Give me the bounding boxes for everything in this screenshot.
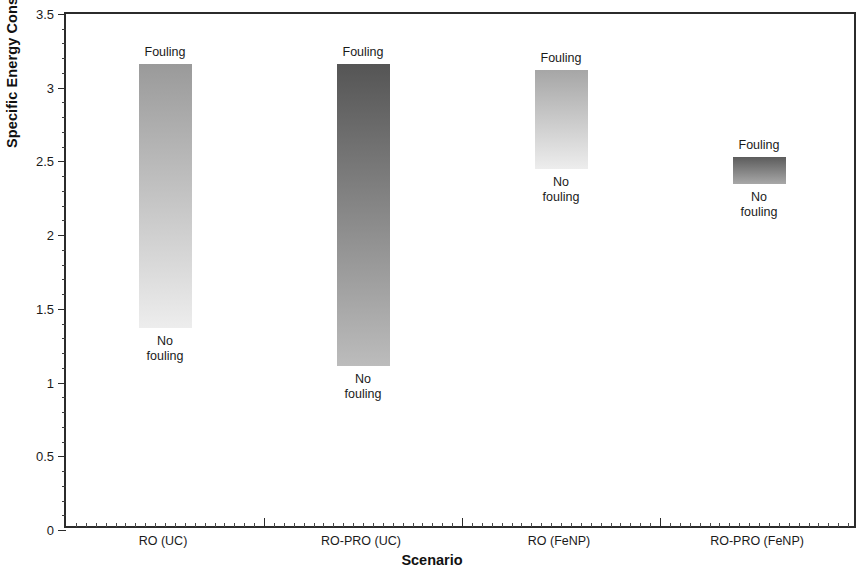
y-axis-minor-tick xyxy=(62,515,66,516)
y-axis-minor-tick xyxy=(62,353,66,354)
x-axis-minor-tick xyxy=(413,523,414,527)
x-axis-minor-tick xyxy=(650,523,651,527)
y-axis-minor-tick xyxy=(62,132,66,133)
x-axis-minor-tick xyxy=(680,523,681,527)
x-axis-minor-tick xyxy=(818,523,819,527)
x-axis-minor-tick xyxy=(789,523,790,527)
x-axis-minor-tick xyxy=(155,523,156,527)
x-axis-minor-tick xyxy=(838,523,839,527)
x-axis-minor-tick xyxy=(244,523,245,527)
y-axis-minor-tick xyxy=(62,412,66,413)
bar-bottom-label: Nofouling xyxy=(147,334,184,364)
y-axis-minor-tick xyxy=(62,294,66,295)
x-axis-tick-mark xyxy=(462,518,463,527)
y-axis-minor-tick xyxy=(62,29,66,30)
y-axis-tick-label: 3.5 xyxy=(36,7,54,22)
x-axis-minor-tick xyxy=(135,523,136,527)
x-axis-minor-tick xyxy=(106,523,107,527)
x-axis-minor-tick xyxy=(690,523,691,527)
x-axis-minor-tick xyxy=(521,523,522,527)
y-axis-tick-label: 3 xyxy=(47,80,54,95)
x-axis-minor-tick xyxy=(432,523,433,527)
x-axis-minor-tick xyxy=(799,523,800,527)
x-axis-minor-tick xyxy=(403,523,404,527)
y-axis-minor-tick xyxy=(62,486,66,487)
bar-bottom-label: Nofouling xyxy=(741,190,778,220)
x-axis-minor-tick xyxy=(205,523,206,527)
bar xyxy=(733,157,786,184)
bar-top-label: Fouling xyxy=(541,51,582,65)
y-axis-minor-tick xyxy=(62,442,66,443)
x-axis-minor-tick xyxy=(125,523,126,527)
x-axis-minor-tick xyxy=(234,523,235,527)
bar-top-label: Fouling xyxy=(343,45,384,59)
bar-bottom-label: Nofouling xyxy=(345,372,382,402)
y-axis-minor-tick xyxy=(62,206,66,207)
x-axis-minor-tick xyxy=(482,523,483,527)
x-axis-minor-tick xyxy=(165,523,166,527)
y-axis-minor-tick xyxy=(62,117,66,118)
y-axis-title-text: Specific Energy Consumption (kWh/m xyxy=(4,0,20,148)
y-axis-minor-tick xyxy=(62,191,66,192)
x-axis-category-label: RO (UC) xyxy=(139,534,188,548)
x-axis-minor-tick xyxy=(710,523,711,527)
y-axis-minor-tick xyxy=(62,501,66,502)
x-axis-minor-tick xyxy=(323,523,324,527)
x-axis-minor-tick xyxy=(224,523,225,527)
x-axis-minor-tick xyxy=(333,523,334,527)
bar xyxy=(139,64,192,328)
x-axis-minor-tick xyxy=(759,523,760,527)
x-axis-minor-tick xyxy=(729,523,730,527)
y-axis-minor-tick xyxy=(62,338,66,339)
y-axis-tick-mark xyxy=(58,14,66,15)
x-axis-minor-tick xyxy=(541,523,542,527)
x-axis-title: Scenario xyxy=(0,552,864,568)
y-axis-title: Specific Energy Consumption (kWh/m3) xyxy=(2,0,20,148)
x-axis-minor-tick xyxy=(373,523,374,527)
x-axis-minor-tick xyxy=(551,523,552,527)
x-axis-minor-tick xyxy=(383,523,384,527)
y-axis-tick-mark xyxy=(58,309,66,310)
y-axis-minor-tick xyxy=(62,368,66,369)
x-axis-category-label: RO-PRO (UC) xyxy=(321,534,401,548)
y-axis-minor-tick xyxy=(62,58,66,59)
y-axis-minor-tick xyxy=(62,147,66,148)
x-axis-minor-tick xyxy=(422,523,423,527)
y-axis-minor-tick xyxy=(62,43,66,44)
x-axis-minor-tick xyxy=(749,523,750,527)
y-axis-minor-tick xyxy=(62,176,66,177)
y-axis-tick-label: 0.5 xyxy=(36,449,54,464)
x-axis-minor-tick xyxy=(343,523,344,527)
x-axis-minor-tick xyxy=(502,523,503,527)
x-axis-minor-tick xyxy=(630,523,631,527)
x-axis-minor-tick xyxy=(700,523,701,527)
y-axis-minor-tick xyxy=(62,102,66,103)
x-axis-minor-tick xyxy=(512,523,513,527)
x-axis-minor-tick xyxy=(116,523,117,527)
x-axis-category-label: RO (FeNP) xyxy=(528,534,591,548)
x-axis-minor-tick xyxy=(96,523,97,527)
x-axis-minor-tick xyxy=(719,523,720,527)
x-axis-minor-tick xyxy=(294,523,295,527)
x-axis-minor-tick xyxy=(769,523,770,527)
y-axis-minor-tick xyxy=(62,250,66,251)
x-axis-minor-tick xyxy=(472,523,473,527)
x-axis-minor-tick xyxy=(86,523,87,527)
x-axis-minor-tick xyxy=(452,523,453,527)
y-axis-tick-mark xyxy=(58,88,66,89)
x-axis-minor-tick xyxy=(571,523,572,527)
y-axis-minor-tick xyxy=(62,324,66,325)
x-axis-category-label: RO-PRO (FeNP) xyxy=(710,534,804,548)
x-axis-minor-tick xyxy=(620,523,621,527)
x-axis-minor-tick xyxy=(254,523,255,527)
y-axis-tick-mark xyxy=(58,383,66,384)
y-axis-tick-mark xyxy=(58,530,66,531)
y-axis-minor-tick xyxy=(62,427,66,428)
y-axis-minor-tick xyxy=(62,73,66,74)
x-axis-minor-tick xyxy=(393,523,394,527)
x-axis-minor-tick xyxy=(492,523,493,527)
x-axis-minor-tick xyxy=(779,523,780,527)
x-axis-minor-tick xyxy=(848,523,849,527)
y-axis-tick-label: 2.5 xyxy=(36,154,54,169)
x-axis-tick-mark xyxy=(660,518,661,527)
